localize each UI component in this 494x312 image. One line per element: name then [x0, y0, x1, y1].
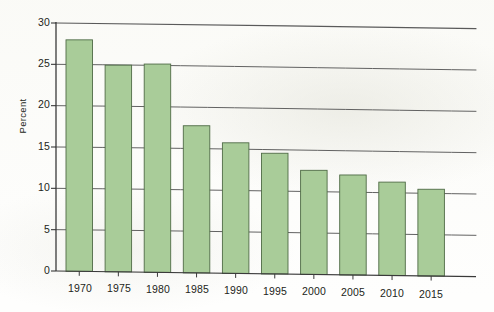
ytick-label: 0: [36, 264, 50, 276]
bar-2005: [340, 175, 367, 275]
ytick-label: 15: [30, 140, 50, 152]
xtick-label-1990: 1990: [216, 284, 256, 296]
ytick-label: 5: [36, 223, 50, 235]
bar-2000: [301, 170, 328, 274]
ytick-label: 30: [30, 16, 50, 28]
bar-2015: [418, 189, 445, 276]
bar-1995: [262, 153, 289, 274]
bar-1980: [144, 64, 171, 272]
xtick-label-1970: 1970: [60, 282, 100, 294]
xtick-label-2000: 2000: [294, 285, 334, 297]
ytick-label: 20: [30, 98, 50, 110]
xtick-label-1975: 1975: [99, 282, 139, 294]
bar-1975: [105, 65, 132, 272]
xtick-label-2015: 2015: [411, 288, 451, 300]
bar-1970: [66, 40, 93, 271]
bar-2010: [379, 182, 406, 275]
y-axis-title: Percent: [17, 86, 28, 146]
ytick-label: 25: [30, 57, 50, 69]
gridline-30: [56, 23, 476, 29]
bar-1990: [222, 143, 249, 274]
bar-1985: [183, 126, 210, 273]
ytick-label: 10: [30, 181, 50, 193]
xtick-label-2010: 2010: [372, 287, 412, 299]
xtick-label-1995: 1995: [255, 285, 295, 297]
chart-figure: 30 25 20 15 10 5 0 Percent 1970 1975 198…: [0, 0, 494, 312]
xtick-label-1985: 1985: [177, 283, 217, 295]
xtick-label-1980: 1980: [138, 283, 178, 295]
bar-chart-plot: [0, 0, 494, 312]
xtick-label-2005: 2005: [333, 286, 373, 298]
bars: [66, 40, 444, 276]
